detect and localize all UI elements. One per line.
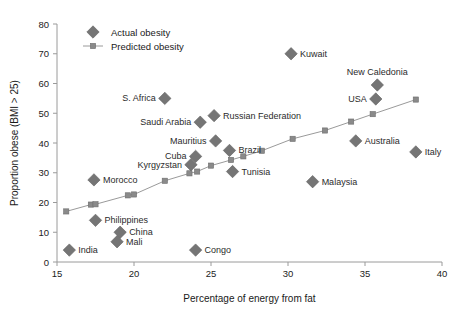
y-tick-label: 40	[38, 138, 49, 149]
y-axis-title: Proportion obese (BMI > 25)	[9, 80, 20, 206]
predicted-point-marker	[187, 171, 192, 176]
actual-point-marker	[89, 214, 101, 226]
predicted-point-marker	[93, 202, 98, 207]
actual-point-marker	[226, 165, 238, 177]
predicted-point-marker	[370, 112, 375, 117]
point-label: New Caledonia	[347, 67, 408, 77]
point-label: Russian Federation	[223, 111, 301, 121]
x-axis-title: Percentage of energy from fat	[183, 293, 316, 304]
x-tick-label: 20	[129, 268, 140, 279]
actual-point-marker	[159, 92, 171, 104]
actual-point-marker	[370, 93, 382, 105]
point-label: Kuwait	[300, 49, 328, 59]
actual-point-marker	[350, 135, 362, 147]
x-tick-label: 35	[360, 268, 371, 279]
actual-point-marker	[63, 244, 75, 256]
obesity-scatter-chart: 15202530354001020304050607080Percentage …	[0, 0, 464, 310]
y-tick-label: 20	[38, 197, 49, 208]
legend-square-icon	[90, 43, 95, 48]
legend-label-actual: Actual obesity	[111, 27, 170, 38]
predicted-point-marker	[228, 157, 233, 162]
x-tick-label: 25	[206, 268, 217, 279]
point-label: Philippines	[105, 215, 149, 225]
point-label: Mauritius	[170, 136, 207, 146]
actual-point-marker	[410, 146, 422, 158]
predicted-point-marker	[131, 192, 136, 197]
point-label: S. Africa	[122, 93, 156, 103]
y-tick-label: 80	[38, 19, 49, 30]
point-label: Cuba	[165, 151, 187, 161]
actual-point-marker	[209, 135, 221, 147]
predicted-point-marker	[208, 163, 213, 168]
y-tick-label: 30	[38, 167, 49, 178]
point-label: Mali	[126, 237, 143, 247]
x-tick-label: 15	[52, 268, 63, 279]
legend-label-predicted: Predicted obesity	[111, 41, 184, 52]
predicted-point-marker	[195, 169, 200, 174]
x-tick-label: 30	[283, 268, 294, 279]
y-tick-label: 50	[38, 108, 49, 119]
predicted-point-marker	[413, 97, 418, 102]
point-label: Tunisia	[242, 167, 271, 177]
actual-point-marker	[194, 116, 206, 128]
actual-point-marker	[223, 144, 235, 156]
point-label: Morocco	[103, 175, 138, 185]
predicted-point-marker	[162, 178, 167, 183]
point-label: Saudi Arabia	[140, 117, 191, 127]
actual-point-marker	[371, 79, 383, 91]
point-label: China	[129, 227, 153, 237]
predicted-point-marker	[290, 136, 295, 141]
y-tick-label: 10	[38, 227, 49, 238]
predicted-point-marker	[64, 209, 69, 214]
point-label: Australia	[365, 136, 400, 146]
plot-area: 15202530354001020304050607080Percentage …	[0, 0, 464, 310]
y-tick-label: 70	[38, 48, 49, 59]
legend-diamond-icon	[87, 26, 99, 38]
actual-point-marker	[285, 48, 297, 60]
x-tick-label: 40	[437, 268, 448, 279]
point-label: Italy	[425, 147, 442, 157]
point-label: Congo	[205, 245, 232, 255]
point-label: Brazil	[238, 145, 261, 155]
predicted-point-marker	[349, 119, 354, 124]
actual-point-marker	[189, 244, 201, 256]
predicted-point-marker	[125, 193, 130, 198]
y-tick-label: 0	[44, 257, 49, 268]
actual-point-marker	[88, 174, 100, 186]
point-label: Malaysia	[322, 177, 358, 187]
actual-point-marker	[306, 175, 318, 187]
point-label: USA	[348, 94, 367, 104]
actual-point-marker	[208, 109, 220, 121]
y-tick-label: 60	[38, 78, 49, 89]
point-label: India	[78, 245, 98, 255]
predicted-point-marker	[322, 128, 327, 133]
